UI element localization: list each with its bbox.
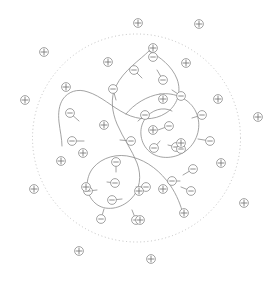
counterion-inside <box>182 59 191 68</box>
pendant-anion <box>112 158 121 167</box>
pendant-anion <box>150 144 159 153</box>
pendant-anion <box>198 111 207 120</box>
pendant-anion <box>189 165 198 174</box>
counterion-inside <box>62 83 71 92</box>
counterion-outside <box>21 96 30 105</box>
counterion-outside <box>134 19 143 28</box>
counterion-outside <box>240 199 249 208</box>
counterion-inside <box>214 95 223 104</box>
counterion-inside <box>159 95 168 104</box>
counterion-inside <box>159 185 168 194</box>
counterion-outside <box>254 113 263 122</box>
counterion-inside <box>57 157 66 166</box>
pendant-anion <box>165 122 174 131</box>
counterion-inside <box>149 126 158 135</box>
pendant-anion <box>130 66 139 75</box>
pendant-anion <box>97 215 106 224</box>
figure-canvas <box>0 0 279 282</box>
pendant-anion <box>206 137 215 146</box>
pendant-stem <box>92 190 97 191</box>
pendant-anion <box>66 109 75 118</box>
counterion-inside <box>104 58 113 67</box>
pendant-anion <box>111 179 120 188</box>
pendant-anion <box>149 53 158 62</box>
counterion-inside <box>100 121 109 130</box>
counterion-outside <box>40 48 49 57</box>
pendant-anion <box>187 187 196 196</box>
counterion-inside <box>149 44 158 53</box>
counterion-inside <box>135 187 144 196</box>
counterion-outside <box>30 185 39 194</box>
counterion-outside <box>147 255 156 264</box>
counterion-inside <box>79 149 88 158</box>
counterion-outside <box>195 20 204 29</box>
canvas-background <box>0 0 279 282</box>
pendant-anion <box>127 137 136 146</box>
pendant-stem <box>116 199 122 200</box>
counterion-inside <box>82 183 91 192</box>
pendant-anion <box>159 76 168 85</box>
pendant-anion <box>141 111 150 120</box>
counterion-inside <box>217 159 226 168</box>
pendant-anion <box>108 196 117 205</box>
counterion-inside <box>180 209 189 218</box>
pendant-anion <box>168 177 177 186</box>
polyelectrolyte-diagram <box>0 0 279 282</box>
pendant-anion <box>68 137 77 146</box>
pendant-anion <box>177 92 186 101</box>
pendant-anion <box>109 85 118 94</box>
counterion-outside <box>75 247 84 256</box>
counterion-inside <box>136 216 145 225</box>
counterion-inside <box>177 139 186 148</box>
